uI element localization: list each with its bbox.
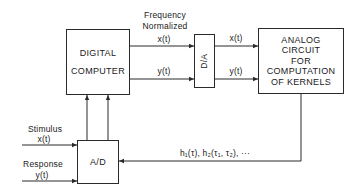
stimulus-x-label: x(t)	[24, 134, 64, 144]
frequency-label: Frequency	[140, 10, 190, 20]
response-y-label: y(t)	[22, 170, 62, 180]
analog-label-4: COMPUTATION	[267, 66, 335, 77]
kernels-label: h₁(τ), h₂(τ₁, τ₂), ···	[160, 148, 270, 158]
stimulus-label: Stimulus	[20, 124, 70, 134]
digital-computer-label-2: COMPUTER	[71, 66, 125, 77]
analog-circuit-box: ANALOG CIRCUIT FOR COMPUTATION OF KERNEL…	[258, 28, 344, 94]
digital-computer-box: DIGITAL COMPUTER	[66, 29, 130, 95]
analog-label-3: FOR	[291, 56, 311, 67]
da-x-label: x(t)	[220, 33, 252, 43]
response-label: Response	[18, 159, 68, 169]
dc-y-label: y(t)	[146, 66, 182, 76]
digital-computer-label-1: DIGITAL	[80, 48, 116, 59]
da-label: D/A	[199, 53, 210, 68]
analog-label-5: OF KERNELS	[271, 77, 331, 88]
ad-converter-box: A/D	[77, 140, 119, 184]
da-converter-box: D/A	[194, 34, 215, 88]
ad-label: A/D	[90, 157, 106, 168]
analog-label-1: ANALOG	[281, 35, 320, 46]
da-y-label: y(t)	[220, 66, 252, 76]
normalized-label: Normalized	[134, 21, 196, 31]
dc-x-label: x(t)	[146, 34, 182, 44]
analog-label-2: CIRCUIT	[282, 45, 321, 56]
